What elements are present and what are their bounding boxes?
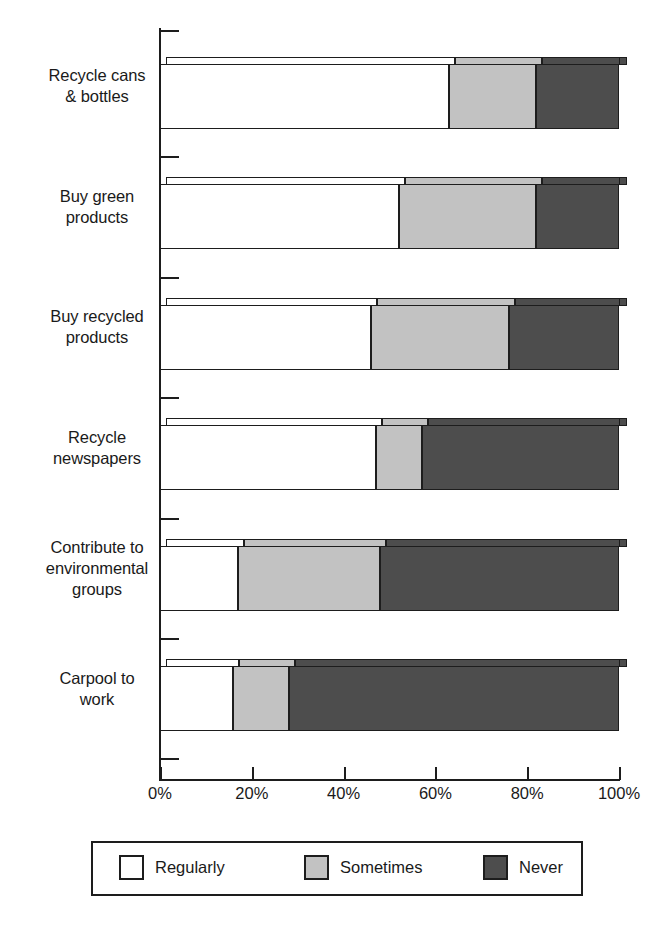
category-label-line: work — [22, 689, 172, 710]
bar-side-bevel — [619, 659, 627, 667]
legend-item-never: Never — [483, 855, 563, 880]
category-label-buy-recycled: Buy recycledproducts — [22, 306, 172, 348]
bar-side-bevel — [619, 418, 627, 426]
bar-segment-never[interactable] — [536, 64, 619, 129]
x-axis-line — [159, 779, 620, 781]
bar-segment-regularly[interactable] — [160, 666, 233, 731]
category-label-buy-green: Buy greenproducts — [22, 186, 172, 228]
legend-label-never: Never — [519, 858, 563, 877]
bar-face — [160, 305, 619, 370]
bar-segment-never[interactable] — [536, 184, 619, 249]
bar-side-bevel — [619, 57, 627, 65]
x-axis-label: 80% — [511, 784, 544, 803]
bar-face — [160, 425, 619, 490]
bar-segment-sometimes[interactable] — [371, 305, 509, 370]
bar-group — [160, 659, 619, 732]
bar-segment-sometimes[interactable] — [376, 425, 422, 490]
category-label-line: environmental — [22, 558, 172, 579]
category-label-line: products — [22, 327, 172, 348]
legend-item-regularly: Regularly — [119, 855, 225, 880]
bar-segment-never[interactable] — [422, 425, 619, 490]
y-axis-tick — [161, 156, 179, 158]
category-label-line: Contribute to — [22, 537, 172, 558]
category-label-line: newspapers — [22, 448, 172, 469]
category-label-line: & bottles — [22, 86, 172, 107]
y-axis-tick — [161, 397, 179, 399]
y-axis-tick — [161, 30, 179, 32]
bar-side-bevel — [619, 539, 627, 547]
bar-segment-sometimes[interactable] — [233, 666, 288, 731]
bar-segment-regularly[interactable] — [160, 184, 399, 249]
y-axis-tick — [161, 638, 179, 640]
stacked-bar-chart: Recycle cans& bottles Buy greenproducts … — [0, 0, 669, 927]
legend-swatch-sometimes-icon — [304, 855, 329, 880]
bar-group — [160, 539, 619, 612]
bar-face — [160, 546, 619, 611]
bar-segment-never[interactable] — [289, 666, 619, 731]
legend-swatch-regularly-icon — [119, 855, 144, 880]
bar-face — [160, 666, 619, 731]
y-axis-tick — [161, 758, 179, 760]
legend-swatch-never-icon — [483, 855, 508, 880]
bar-group — [160, 418, 619, 491]
x-axis-label: 100% — [598, 784, 640, 803]
bar-segment-sometimes[interactable] — [399, 184, 537, 249]
bar-group — [160, 177, 619, 250]
category-label-recycle-newspapers: Recyclenewspapers — [22, 427, 172, 469]
bar-segment-regularly[interactable] — [160, 425, 376, 490]
category-label-contribute-environmental: Contribute toenvironmentalgroups — [22, 537, 172, 600]
bar-segment-regularly[interactable] — [160, 64, 449, 129]
bar-segment-regularly[interactable] — [160, 305, 371, 370]
x-axis-tick — [252, 767, 254, 780]
bar-segment-sometimes[interactable] — [238, 546, 380, 611]
bar-side-bevel — [619, 177, 627, 185]
bar-segment-never[interactable] — [509, 305, 619, 370]
bar-group — [160, 298, 619, 371]
x-axis-tick — [344, 767, 346, 780]
bar-segment-sometimes[interactable] — [449, 64, 536, 129]
x-axis-label: 60% — [419, 784, 452, 803]
bar-group — [160, 57, 619, 130]
category-label-line: products — [22, 207, 172, 228]
x-axis-label: 0% — [148, 784, 172, 803]
x-axis-tick — [527, 767, 529, 780]
legend-label-sometimes: Sometimes — [340, 858, 423, 877]
x-axis-tick — [619, 767, 621, 780]
y-axis-tick — [161, 277, 179, 279]
category-label-line: Carpool to — [22, 668, 172, 689]
bar-face — [160, 64, 619, 129]
plot-area: Recycle cans& bottles Buy greenproducts … — [0, 0, 669, 820]
legend-item-sometimes: Sometimes — [304, 855, 423, 880]
category-label-recycle-cans: Recycle cans& bottles — [22, 65, 172, 107]
x-axis-label: 40% — [327, 784, 360, 803]
bar-face — [160, 184, 619, 249]
x-axis-tick — [160, 767, 162, 780]
y-axis-tick — [161, 518, 179, 520]
x-axis-label: 20% — [235, 784, 268, 803]
bar-segment-never[interactable] — [380, 546, 619, 611]
legend-label-regularly: Regularly — [155, 858, 225, 877]
bar-side-bevel — [619, 298, 627, 306]
category-label-line: Recycle cans — [22, 65, 172, 86]
x-axis-tick — [435, 767, 437, 780]
category-label-carpool: Carpool towork — [22, 668, 172, 710]
legend: Regularly Sometimes Never — [91, 841, 583, 896]
category-label-line: Buy recycled — [22, 306, 172, 327]
category-label-line: Buy green — [22, 186, 172, 207]
bar-segment-regularly[interactable] — [160, 546, 238, 611]
category-label-line: Recycle — [22, 427, 172, 448]
category-label-line: groups — [22, 579, 172, 600]
